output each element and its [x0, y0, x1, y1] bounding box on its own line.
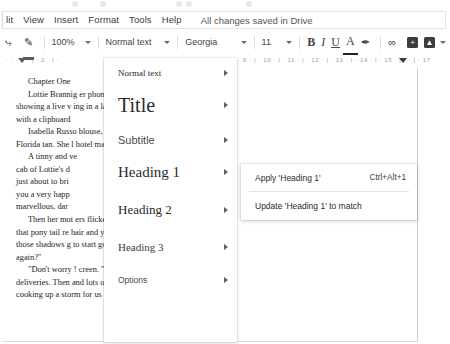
- font-select[interactable]: Georgia: [182, 30, 249, 54]
- heading-1-submenu[interactable]: Apply 'Heading 1' Ctrl+Alt+1 Update 'Hea…: [241, 164, 417, 220]
- toolbar-divider: [299, 36, 300, 49]
- chevron-right-icon: [224, 207, 228, 213]
- chevron-down-icon: [85, 41, 91, 44]
- top-artifact-strip: [0, 0, 450, 11]
- chevron-right-icon: [224, 169, 228, 175]
- link-icon[interactable]: ∞: [385, 30, 404, 54]
- style-label: Heading 1: [118, 164, 180, 181]
- artifact-dot: [72, 1, 78, 7]
- toolbar-divider: [380, 36, 381, 49]
- paragraph-styles-menu[interactable]: Normal text Title Subtitle Heading 1 Hea…: [104, 58, 237, 342]
- add-comment-icon[interactable]: +: [404, 30, 421, 54]
- update-heading-1-label: Update 'Heading 1' to match: [255, 201, 362, 211]
- style-label: Subtitle: [118, 134, 155, 146]
- font-size-value: 11: [262, 37, 271, 47]
- menu-bar: lit View Insert Format Tools Help All ch…: [2, 11, 446, 29]
- menu-item-format[interactable]: Format: [83, 12, 124, 28]
- chevron-right-icon: [224, 277, 228, 283]
- style-item-title[interactable]: Title: [104, 88, 237, 122]
- style-item-heading-3[interactable]: Heading 3: [104, 235, 237, 259]
- paragraph-style-value: Normal text: [106, 37, 152, 47]
- zoom-value: 100%: [51, 37, 74, 47]
- paint-format-icon[interactable]: ✎: [21, 30, 40, 54]
- menu-item-tools[interactable]: Tools: [124, 12, 157, 28]
- chevron-right-icon: [224, 70, 228, 76]
- chevron-down-icon: [241, 41, 247, 44]
- artifact-dot: [100, 1, 106, 7]
- insert-image-icon[interactable]: ▲: [421, 30, 438, 54]
- toolbar: ⤷ ✎ 100% Normal text Georgia 11 B I U A …: [2, 30, 446, 54]
- left-indent-marker[interactable]: [23, 57, 34, 60]
- highlight-pen-icon[interactable]: ✒: [358, 30, 377, 54]
- style-item-heading-1[interactable]: Heading 1: [104, 158, 237, 186]
- update-heading-1-item[interactable]: Update 'Heading 1' to match: [241, 192, 417, 219]
- toolbar-divider: [254, 36, 255, 49]
- artifact-dot: [176, 1, 182, 7]
- apply-heading-1-shortcut: Ctrl+Alt+1: [370, 173, 406, 182]
- paragraph-style-select[interactable]: Normal text: [103, 30, 174, 54]
- style-item-heading-2[interactable]: Heading 2: [104, 197, 237, 223]
- italic-button[interactable]: I: [318, 30, 328, 54]
- chevron-down-icon: [164, 41, 170, 44]
- save-status-label: All changes saved in Drive: [187, 15, 313, 26]
- toolbar-divider: [177, 36, 178, 49]
- chevron-right-icon: [224, 137, 228, 143]
- menu-item-help[interactable]: Help: [157, 12, 187, 28]
- style-label: Normal text: [118, 68, 161, 78]
- text-color-button[interactable]: A: [343, 29, 358, 55]
- apply-heading-1-label: Apply 'Heading 1': [255, 173, 321, 183]
- chevron-right-icon: [224, 244, 228, 250]
- style-label: Heading 3: [118, 241, 164, 253]
- style-item-options[interactable]: Options: [104, 270, 237, 290]
- menu-item-view[interactable]: View: [18, 12, 49, 28]
- style-item-subtitle[interactable]: Subtitle: [104, 128, 237, 152]
- font-value: Georgia: [185, 37, 217, 47]
- apply-heading-1-item[interactable]: Apply 'Heading 1' Ctrl+Alt+1: [241, 164, 417, 191]
- artifact-dot: [246, 1, 252, 7]
- bold-button[interactable]: B: [304, 30, 318, 54]
- menu-item-insert[interactable]: Insert: [49, 12, 83, 28]
- style-label: Options: [118, 275, 147, 285]
- toolbar-divider: [44, 36, 45, 49]
- artifact-dot: [186, 1, 192, 7]
- font-size-select[interactable]: 11: [259, 30, 296, 54]
- chevron-down-icon: [440, 41, 446, 44]
- chevron-down-icon: [286, 41, 292, 44]
- toolbar-divider: [98, 36, 99, 49]
- chevron-right-icon: [224, 102, 228, 108]
- style-label: Heading 2: [118, 202, 172, 218]
- style-item-normal-text[interactable]: Normal text: [104, 62, 237, 84]
- style-label: Title: [118, 94, 155, 117]
- zoom-select[interactable]: 100%: [48, 30, 93, 54]
- tab-stop-marker[interactable]: [399, 58, 407, 63]
- undo-icon[interactable]: ⤷: [2, 30, 21, 54]
- menu-item-edit[interactable]: lit: [3, 12, 18, 28]
- underline-button[interactable]: U: [328, 30, 343, 54]
